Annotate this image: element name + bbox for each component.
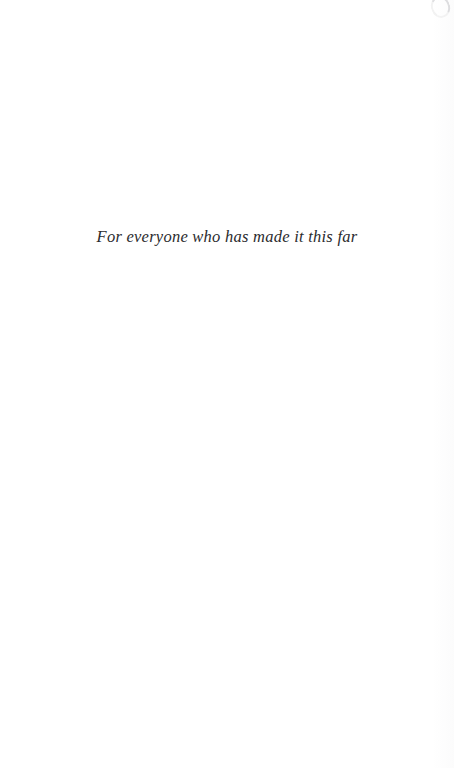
scan-smudge-icon (428, 0, 453, 20)
dedication-page: For everyone who has made it this far (0, 0, 454, 768)
dedication-block: For everyone who has made it this far (0, 226, 454, 248)
dedication-text: For everyone who has made it this far (97, 226, 358, 248)
scan-edge-shadow (432, 0, 454, 768)
